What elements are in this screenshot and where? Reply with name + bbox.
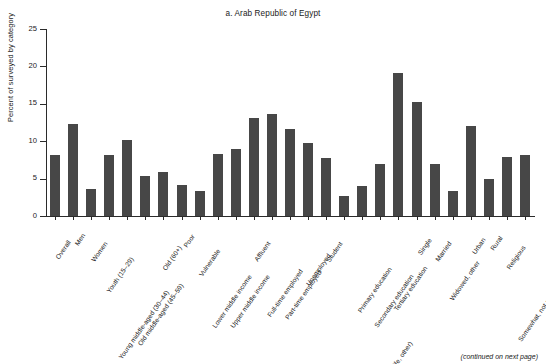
x-axis-tick-label: Religious [522,222,544,249]
x-tick [489,216,490,220]
y-tick-label: 25 [29,24,40,34]
bar [339,196,349,216]
y-axis-title: Percent of surveyed by category [6,13,15,122]
x-axis-tick-label-text: Young middle-aged (30–44) [117,289,170,361]
bar [86,189,96,216]
bar [303,143,313,216]
x-tick [435,216,436,220]
x-tick [362,216,363,220]
x-tick [453,216,454,220]
bar [50,155,60,216]
bar [122,140,132,216]
x-tick [109,216,110,220]
y-tick: 0 [40,216,46,217]
x-tick [507,216,508,220]
x-tick [290,216,291,220]
bar [520,155,530,216]
bar [285,129,295,216]
bar [177,185,187,216]
bar [249,118,259,216]
x-tick [73,216,74,220]
chart-title: a. Arab Republic of Egypt [0,9,546,18]
x-tick [182,216,183,220]
bar [448,191,458,216]
x-axis-tick-label-text: Other out of workforce (retired, housewi… [325,340,414,364]
bar [158,172,168,216]
y-tick-label: 5 [33,173,40,183]
x-tick [272,216,273,220]
x-tick [91,216,92,220]
footer-note: (continued on next page) [461,353,538,360]
bar [393,73,403,216]
x-tick [344,216,345,220]
x-tick [326,216,327,220]
bar [140,176,150,216]
x-axis-tick-label-text: Overall [54,239,72,261]
x-axis-tick-label-text: Women [90,240,109,263]
x-tick [127,216,128,220]
x-axis-tick-label-text: Youth (15–29) [105,256,135,295]
y-tick-label: 0 [33,211,40,221]
bar [104,155,114,216]
plot-area [46,29,534,216]
x-tick [218,216,219,220]
bar [412,102,422,216]
x-tick [145,216,146,220]
bar [321,158,331,216]
x-axis-tick-label: Youth (15–29) [130,222,160,261]
bar [231,149,241,216]
y-tick-label: 10 [29,136,40,146]
x-axis-tick-label: Women [104,222,123,245]
y-tick-label: 20 [29,61,40,71]
x-tick [254,216,255,220]
chart-figure: a. Arab Republic of Egypt Percent of sur… [0,0,546,364]
bar [484,179,494,216]
bar [267,114,277,216]
bar [375,164,385,216]
x-tick [163,216,164,220]
x-tick [380,216,381,220]
x-axis-tick-label-text: Somewhat, not religious [517,280,546,343]
x-tick [55,216,56,220]
bar [195,191,205,216]
x-tick [200,216,201,220]
bar [68,124,78,216]
x-axis-tick-label-text: Religious [505,244,527,271]
x-tick [525,216,526,220]
bar [502,157,512,216]
bar [430,164,440,216]
x-tick [398,216,399,220]
x-tick [417,216,418,220]
bar [357,186,367,216]
x-tick [471,216,472,220]
bar [213,154,223,216]
x-tick [308,216,309,220]
x-tick [236,216,237,220]
bar [466,126,476,217]
y-tick-label: 15 [29,98,40,108]
